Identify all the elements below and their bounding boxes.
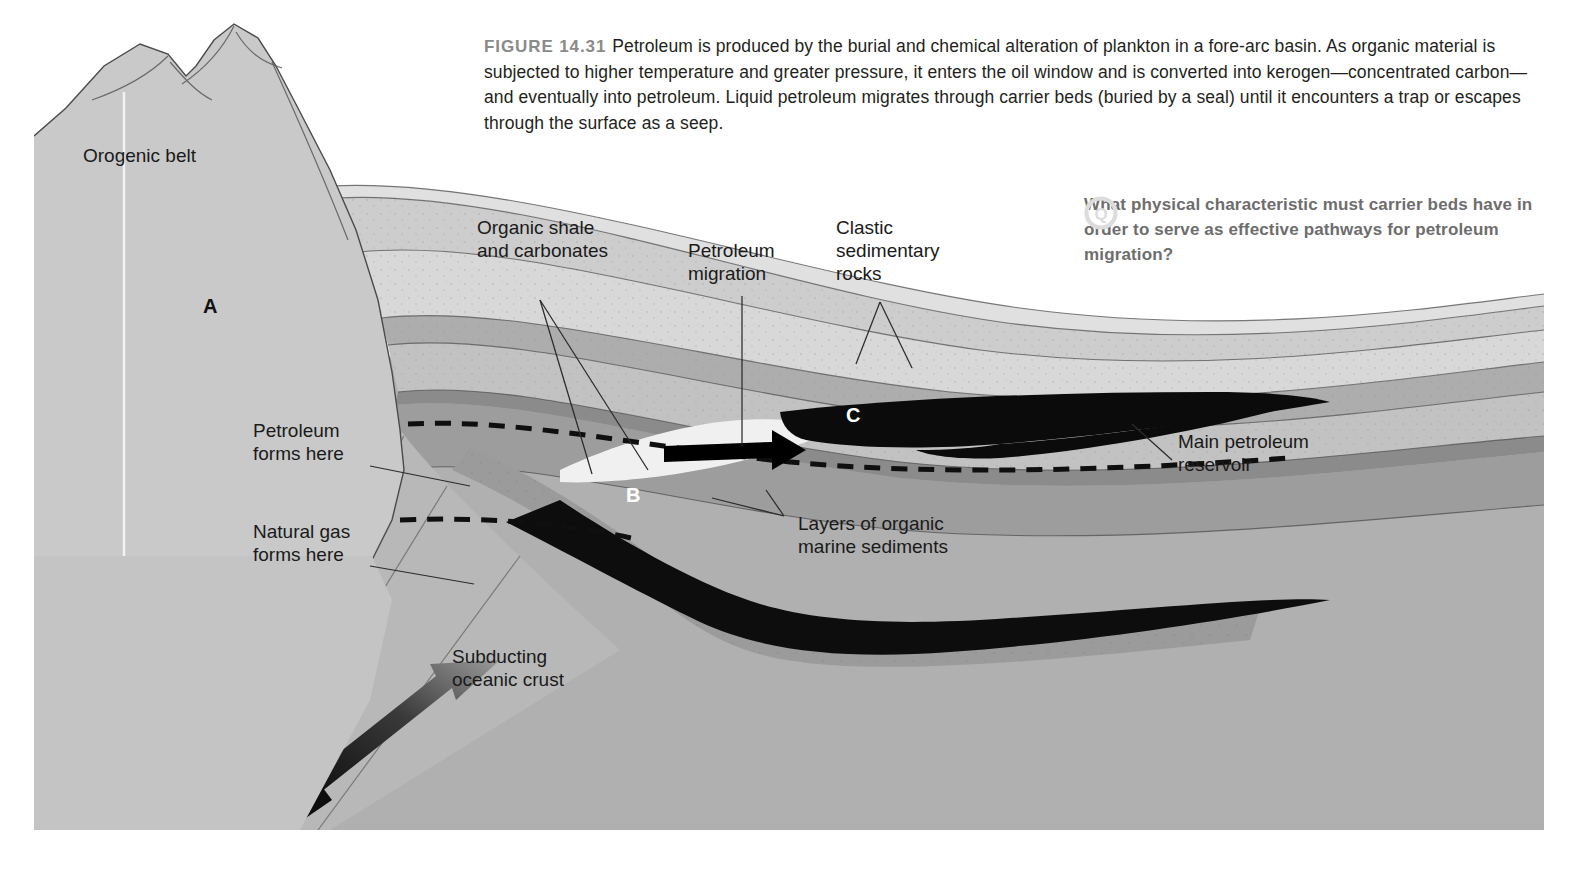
figure-caption: FIGURE 14.31Petroleum is produced by the… <box>484 34 1540 136</box>
question-circle-icon: Q <box>1084 196 1118 230</box>
figure-number: FIGURE 14.31 <box>484 37 606 56</box>
figure-caption-text: Petroleum is produced by the burial and … <box>484 36 1527 133</box>
label-clastic-line1: Clastic <box>836 216 893 239</box>
label-orogenic-belt: Orogenic belt <box>83 144 196 167</box>
figure-canvas: FIGURE 14.31Petroleum is produced by the… <box>0 0 1588 878</box>
review-question-text: What physical characteristic must carrie… <box>1084 192 1544 267</box>
label-layers-organic-line2: marine sediments <box>798 535 948 558</box>
label-natural-gas-line2: forms here <box>253 543 344 566</box>
label-petroleum-forms-line1: Petroleum <box>253 419 340 442</box>
marker-c: C <box>846 404 860 427</box>
review-question: Q What physical characteristic must carr… <box>1084 192 1544 267</box>
marker-a: A <box>203 295 217 318</box>
label-natural-gas-line1: Natural gas <box>253 520 350 543</box>
label-petroleum-forms-line2: forms here <box>253 442 344 465</box>
label-clastic-line3: rocks <box>836 262 881 285</box>
label-main-reservoir-line1: Main petroleum <box>1178 430 1309 453</box>
label-petroleum-migration-line2: migration <box>688 262 766 285</box>
question-icon-letter: Q <box>1094 205 1107 224</box>
marker-b: B <box>626 484 640 507</box>
label-petroleum-migration-line1: Petroleum <box>688 239 775 262</box>
orogenic-belt-block <box>34 24 404 560</box>
label-main-reservoir-line2: reservoir <box>1178 453 1252 476</box>
label-organic-shale-line2: and carbonates <box>477 239 608 262</box>
label-organic-shale-line1: Organic shale <box>477 216 594 239</box>
label-clastic-line2: sedimentary <box>836 239 940 262</box>
label-subducting-line2: oceanic crust <box>452 668 564 691</box>
label-subducting-line1: Subducting <box>452 645 547 668</box>
label-layers-organic-line1: Layers of organic <box>798 512 944 535</box>
